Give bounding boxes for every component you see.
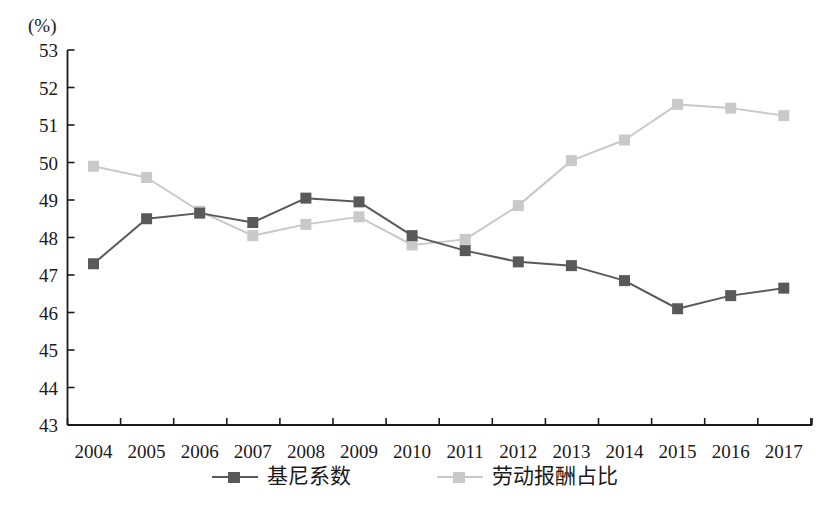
legend-entry-2[interactable]: 劳动报酬占比 (437, 466, 618, 487)
data-point-marker (247, 230, 258, 241)
data-point-marker (513, 200, 524, 211)
data-point-marker (460, 245, 471, 256)
line-chart: (%) 5352515049484746454443 2004200520062… (0, 0, 830, 519)
data-point-marker (460, 234, 471, 245)
data-point-marker (725, 103, 736, 114)
legend-entry-1[interactable]: 基尼系数 (212, 466, 351, 487)
legend-swatch-icon (437, 470, 483, 484)
data-point-marker (141, 213, 152, 224)
y-axis-ticks (68, 50, 75, 425)
data-point-marker (513, 256, 524, 267)
data-point-marker (88, 161, 99, 172)
data-point-marker (354, 211, 365, 222)
legend-label: 基尼系数 (267, 466, 351, 487)
data-point-marker (300, 193, 311, 204)
series-1 (88, 193, 789, 315)
x-axis-ticks (68, 418, 813, 425)
data-point-marker (725, 290, 736, 301)
legend-marker (228, 472, 240, 483)
data-point-marker (407, 230, 418, 241)
data-point-marker (619, 135, 630, 146)
series-2 (88, 99, 789, 251)
data-point-marker (247, 217, 258, 228)
legend-marker (453, 472, 465, 483)
data-point-marker (141, 172, 152, 183)
data-point-marker (194, 208, 205, 219)
data-point-marker (619, 275, 630, 286)
data-point-marker (407, 240, 418, 251)
legend-label: 劳动报酬占比 (492, 466, 618, 487)
data-point-marker (672, 99, 683, 110)
chart-legend: 基尼系数劳动报酬占比 (0, 466, 830, 487)
data-point-marker (672, 303, 683, 314)
data-point-marker (354, 196, 365, 207)
data-point-marker (566, 260, 577, 271)
series-line (94, 104, 784, 245)
data-point-marker (778, 283, 789, 294)
data-point-marker (300, 219, 311, 230)
data-point-marker (778, 110, 789, 121)
data-point-marker (566, 155, 577, 166)
legend-swatch-icon (212, 470, 258, 484)
data-point-marker (88, 258, 99, 269)
plot-area (0, 0, 830, 519)
